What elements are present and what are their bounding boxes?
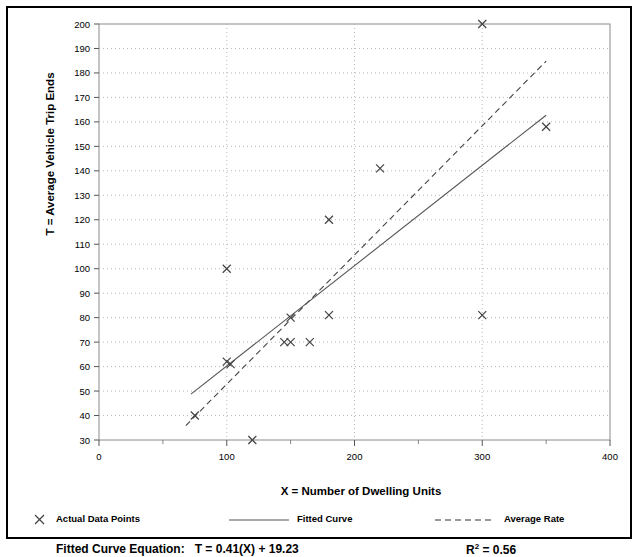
svg-text:140: 140 xyxy=(74,165,90,176)
r-squared-value: = 0.56 xyxy=(479,543,516,557)
svg-text:400: 400 xyxy=(602,451,618,462)
x-axis-ticks: 0100200300400 xyxy=(96,440,618,462)
svg-text:160: 160 xyxy=(74,116,90,127)
dashed-line-icon xyxy=(435,512,497,526)
svg-text:130: 130 xyxy=(74,190,90,201)
svg-text:60: 60 xyxy=(79,361,90,372)
svg-text:170: 170 xyxy=(74,92,90,103)
y-axis-title: T = Average Vehicle Trip Ends xyxy=(44,34,56,274)
y-axis-ticks: 3040506070809010011012013014015016017018… xyxy=(74,19,99,446)
svg-text:70: 70 xyxy=(79,337,90,348)
r-squared-label: R xyxy=(466,543,475,557)
chart-legend: Actual Data Points Fitted Curve Average … xyxy=(26,513,626,535)
figure-border: 3040506070809010011012013014015016017018… xyxy=(6,6,632,539)
svg-text:190: 190 xyxy=(74,43,90,54)
svg-text:100: 100 xyxy=(219,451,235,462)
svg-text:200: 200 xyxy=(347,451,363,462)
svg-text:90: 90 xyxy=(79,288,90,299)
legend-label-fitted-curve: Fitted Curve xyxy=(297,513,352,524)
svg-text:80: 80 xyxy=(79,312,90,323)
svg-text:200: 200 xyxy=(74,19,90,30)
svg-text:180: 180 xyxy=(74,67,90,78)
svg-text:0: 0 xyxy=(96,451,101,462)
solid-line-icon xyxy=(229,512,291,526)
fitted-curve-equation: Fitted Curve Equation: T = 0.41(X) + 19.… xyxy=(56,542,299,556)
svg-text:110: 110 xyxy=(75,239,90,250)
legend-label-actual-data-points: Actual Data Points xyxy=(56,513,140,524)
svg-text:300: 300 xyxy=(474,451,490,462)
fitted-curve-equation-label: Fitted Curve Equation: xyxy=(56,542,185,556)
svg-text:50: 50 xyxy=(79,386,90,397)
svg-text:150: 150 xyxy=(74,141,90,152)
fitted-curve-equation-value: T = 0.41(X) + 19.23 xyxy=(195,542,299,556)
svg-text:100: 100 xyxy=(74,263,90,274)
legend-label-average-rate: Average Rate xyxy=(504,513,564,524)
chart-canvas: 3040506070809010011012013014015016017018… xyxy=(8,8,634,541)
x-axis-title: X = Number of Dwelling Units xyxy=(105,485,617,497)
svg-text:120: 120 xyxy=(74,214,90,225)
svg-text:30: 30 xyxy=(79,435,90,446)
svg-text:40: 40 xyxy=(79,410,90,421)
r-squared: R2 = 0.56 xyxy=(466,542,516,557)
x-marker-icon xyxy=(32,512,48,526)
